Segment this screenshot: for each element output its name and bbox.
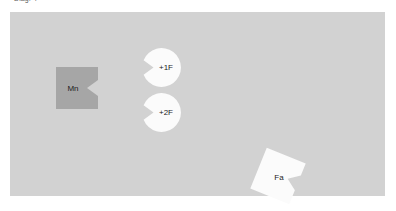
diagram-board[interactable]: Mn +1F +2F Fa (10, 12, 385, 196)
diagram-canvas: Diag. 4 Mn +1F +2F (0, 0, 396, 211)
node-mn[interactable]: Mn (56, 67, 98, 109)
node-fa[interactable]: Fa (253, 152, 303, 200)
node-fa-shape (253, 152, 303, 200)
node-plus-1f[interactable]: +1F (142, 47, 182, 88)
diagram-caption: Diag. 4 (14, 0, 37, 4)
node-mn-shape (56, 67, 98, 109)
node-plus-2f-shape (142, 92, 182, 133)
node-plus-2f[interactable]: +2F (142, 92, 182, 133)
node-plus-1f-shape (142, 47, 182, 88)
